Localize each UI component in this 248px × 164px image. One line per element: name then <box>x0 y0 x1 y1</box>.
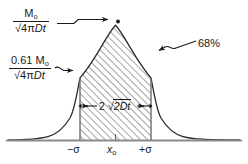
pi-symbol: π <box>27 22 35 34</box>
leader-inflection-amplitude <box>55 67 73 71</box>
inflection-amplitude-numerator-subscript: o <box>45 59 49 68</box>
inflection-amplitude-denominator: √4πDt <box>9 70 51 81</box>
inflection-amplitude-numerator: 0.61 Mo <box>9 55 51 67</box>
peak-amplitude-numerator: Mo <box>13 8 49 20</box>
fraction-peak-amplitude: Mo √4πDt <box>13 8 49 34</box>
leader-peak-amplitude <box>57 20 120 24</box>
peak-amplitude-denominator: √4πDt <box>13 23 49 34</box>
radicand: 4πDt <box>20 68 46 81</box>
radicand: 2Dt <box>113 99 131 112</box>
label-peak-amplitude: Mo √4πDt <box>13 8 49 34</box>
diffusion-gaussian-figure: Mo √4πDt 0.61 Mo √4πDt 68% 2 √2Dt −σ xo … <box>0 0 248 164</box>
coefficient: 0.61 <box>11 54 32 66</box>
shaded-area-one-sigma <box>78 20 153 141</box>
radicand: 4πDt <box>21 21 47 34</box>
axis-tick-label-neg-sigma: −σ <box>67 144 80 155</box>
fraction-inflection-amplitude: 0.61 Mo √4πDt <box>9 55 51 81</box>
leader-area-percent <box>159 41 196 51</box>
axis-tick-label-pos-sigma: +σ <box>139 144 152 155</box>
x0-subscript: o <box>112 148 116 157</box>
hatch-fill <box>78 20 153 141</box>
axis-tick-label-x0: xo <box>107 144 116 156</box>
label-width-span: 2 √2Dt <box>99 101 131 112</box>
pi-symbol: π <box>26 69 34 81</box>
label-inflection-amplitude: 0.61 Mo √4πDt <box>9 55 51 81</box>
label-area-percent: 68% <box>198 38 220 49</box>
peak-marker-dot <box>116 20 120 24</box>
width-coefficient: 2 <box>99 100 105 112</box>
peak-amplitude-numerator-subscript: o <box>33 12 37 21</box>
